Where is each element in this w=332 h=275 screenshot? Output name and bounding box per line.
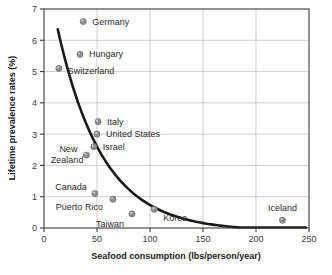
point-label-switzerland: Switzerland xyxy=(68,66,115,76)
marker-highlight xyxy=(93,191,95,193)
marker-highlight xyxy=(57,66,59,68)
data-point-marker xyxy=(56,65,62,71)
marker-dot xyxy=(279,217,285,223)
point-label-korea: Korea xyxy=(163,213,187,223)
x-tick-label: 50 xyxy=(92,234,102,244)
x-tick-label: 0 xyxy=(41,234,46,244)
marker-highlight xyxy=(95,132,97,134)
point-label-israel: Israel xyxy=(103,142,125,152)
data-point-marker xyxy=(129,211,135,217)
x-tick-labels: 050100150200250 xyxy=(41,234,316,244)
y-tick-label: 5 xyxy=(32,67,37,77)
y-tick-label: 0 xyxy=(32,223,37,233)
y-tick-label: 7 xyxy=(32,4,37,14)
marker-dot xyxy=(94,131,100,137)
marker-dot xyxy=(110,196,116,202)
data-point-marker xyxy=(94,131,100,137)
data-point-marker xyxy=(95,119,101,125)
marker-dot xyxy=(91,144,97,150)
marker-highlight xyxy=(78,52,80,54)
data-point-marker xyxy=(110,196,116,202)
marker-highlight xyxy=(96,119,98,121)
marker-highlight xyxy=(92,145,94,147)
marker-dot xyxy=(95,119,101,125)
data-point-marker xyxy=(83,152,89,158)
y-tick-label: 2 xyxy=(32,161,37,171)
marker-dot xyxy=(92,190,98,196)
marker-dot xyxy=(56,65,62,71)
y-tick-label: 1 xyxy=(32,192,37,202)
marker-dot xyxy=(77,51,83,57)
marker-highlight xyxy=(111,197,113,199)
y-tick-labels: 01234567 xyxy=(32,4,37,233)
marker-highlight xyxy=(81,19,83,21)
marker-highlight xyxy=(84,153,86,155)
point-label-taiwan: Taiwan xyxy=(96,219,124,229)
marker-dot xyxy=(129,211,135,217)
y-tick-label: 3 xyxy=(32,130,37,140)
marker-highlight xyxy=(152,207,154,209)
marker-dot xyxy=(80,18,86,24)
data-point-marker xyxy=(77,51,83,57)
data-point-marker xyxy=(279,217,285,223)
x-tick-label: 150 xyxy=(195,234,210,244)
y-axis-title: Lifetime prevalence rates (%) xyxy=(7,56,17,181)
x-tick-label: 100 xyxy=(142,234,157,244)
point-label-united-states: United States xyxy=(106,129,161,139)
marker-dot xyxy=(151,206,157,212)
point-label-new-zealand-line2: Zealand xyxy=(51,155,84,165)
point-label-hungary: Hungary xyxy=(89,49,124,59)
point-label-germany: Germany xyxy=(92,17,130,27)
y-tick-label: 4 xyxy=(32,98,37,108)
marker-highlight xyxy=(280,218,282,220)
point-label-puerto-rico: Puerto Rico xyxy=(56,202,103,212)
point-label-iceland: Iceland xyxy=(268,203,297,213)
data-point-marker xyxy=(151,206,157,212)
chart-canvas: 050100150200250 01234567 GermanyHungaryS… xyxy=(0,0,332,275)
x-tick-label: 200 xyxy=(248,234,263,244)
data-point-marker xyxy=(91,144,97,150)
data-point-marker xyxy=(80,18,86,24)
y-tick-label: 6 xyxy=(32,36,37,46)
marker-highlight xyxy=(130,212,132,214)
point-label-new-zealand: New xyxy=(59,144,78,154)
data-point-marker xyxy=(92,190,98,196)
marker-dot xyxy=(83,152,89,158)
point-label-italy: Italy xyxy=(107,117,124,127)
x-tick-label: 250 xyxy=(301,234,316,244)
x-axis-title: Seafood consumption (lbs/person/year) xyxy=(91,251,261,261)
point-label-canada: Canada xyxy=(55,182,87,192)
seafood-prevalence-scatter-figure: 050100150200250 01234567 GermanyHungaryS… xyxy=(0,0,332,275)
tickmarks-group xyxy=(40,9,309,232)
